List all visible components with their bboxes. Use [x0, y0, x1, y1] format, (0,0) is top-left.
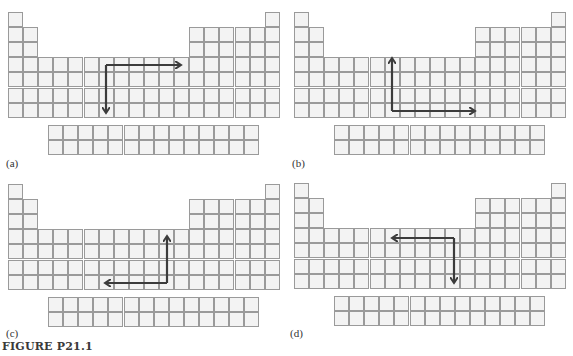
element-cell [23, 42, 38, 57]
element-cell [294, 228, 309, 243]
element-cell [309, 259, 324, 274]
element-cell [159, 72, 174, 87]
element-cell [159, 260, 174, 275]
element-cell [84, 275, 99, 290]
f-block-cell [63, 140, 78, 155]
element-cell [250, 244, 265, 259]
f-block-cell [349, 311, 364, 326]
f-block-cell [394, 125, 409, 140]
element-cell [551, 12, 566, 27]
element-cell [490, 103, 505, 118]
element-cell [219, 88, 234, 103]
element-cell [159, 229, 174, 244]
element-cell [536, 198, 551, 213]
f-block-cell [515, 125, 530, 140]
element-cell [129, 260, 144, 275]
f-block-cell [530, 311, 545, 326]
f-block-cell [530, 125, 545, 140]
panel-label-d: (d) [290, 327, 303, 339]
element-cell [339, 72, 354, 87]
element-cell [536, 27, 551, 42]
f-block-cell [48, 125, 63, 140]
element-cell [309, 213, 324, 228]
f-block-cell [515, 140, 530, 155]
element-cell [475, 213, 490, 228]
element-cell [430, 228, 445, 243]
element-cell [415, 243, 430, 258]
f-block-cell [108, 312, 123, 327]
element-cell [23, 260, 38, 275]
element-cell [265, 12, 280, 27]
element-cell [204, 260, 219, 275]
element-cell [445, 243, 460, 258]
element-cell [505, 274, 520, 289]
element-cell [174, 72, 189, 87]
element-cell [144, 244, 159, 259]
element-cell [309, 57, 324, 72]
element-cell [521, 243, 536, 258]
element-cell [219, 199, 234, 214]
element-cell [536, 228, 551, 243]
f-block-cell [78, 312, 93, 327]
f-block-cell [379, 140, 394, 155]
element-cell [551, 213, 566, 228]
element-cell [129, 103, 144, 118]
f-block-cell [394, 140, 409, 155]
element-cell [460, 274, 475, 289]
element-cell [460, 72, 475, 87]
element-cell [430, 243, 445, 258]
element-cell [84, 57, 99, 72]
f-block-cell [229, 125, 244, 140]
element-cell [38, 244, 53, 259]
element-cell [144, 260, 159, 275]
f-block-cell [349, 140, 364, 155]
element-cell [309, 88, 324, 103]
element-cell [23, 72, 38, 87]
f-block-cell [500, 296, 515, 311]
f-block-cell [455, 311, 470, 326]
f-block-cell [199, 312, 214, 327]
element-cell [250, 57, 265, 72]
element-cell [370, 72, 385, 87]
element-cell [551, 183, 566, 198]
element-cell [339, 274, 354, 289]
element-cell [385, 243, 400, 258]
element-cell [445, 228, 460, 243]
element-cell [144, 72, 159, 87]
element-cell [68, 275, 83, 290]
f-block-cell [93, 297, 108, 312]
element-cell [460, 259, 475, 274]
element-cell [23, 88, 38, 103]
element-cell [490, 88, 505, 103]
element-cell [265, 57, 280, 72]
element-cell [68, 244, 83, 259]
element-cell [475, 42, 490, 57]
f-block-cell [440, 140, 455, 155]
element-cell [38, 229, 53, 244]
element-cell [250, 214, 265, 229]
element-cell [370, 259, 385, 274]
f-block-cell [515, 311, 530, 326]
element-cell [445, 103, 460, 118]
f-block-cell [394, 311, 409, 326]
panel-label-c: (c) [6, 327, 18, 339]
f-block-cell [214, 140, 229, 155]
element-cell [505, 198, 520, 213]
element-cell [475, 72, 490, 87]
element-cell [339, 103, 354, 118]
element-cell [324, 259, 339, 274]
element-cell [235, 214, 250, 229]
f-block-cell [425, 140, 440, 155]
element-cell [250, 103, 265, 118]
element-cell [38, 88, 53, 103]
element-cell [536, 243, 551, 258]
f-block-cell [485, 311, 500, 326]
element-cell [400, 103, 415, 118]
element-cell [219, 42, 234, 57]
f-block-cell [214, 312, 229, 327]
element-cell [114, 275, 129, 290]
f-block-cell [440, 311, 455, 326]
element-cell [53, 57, 68, 72]
element-cell [309, 228, 324, 243]
f-block-cell [410, 296, 425, 311]
